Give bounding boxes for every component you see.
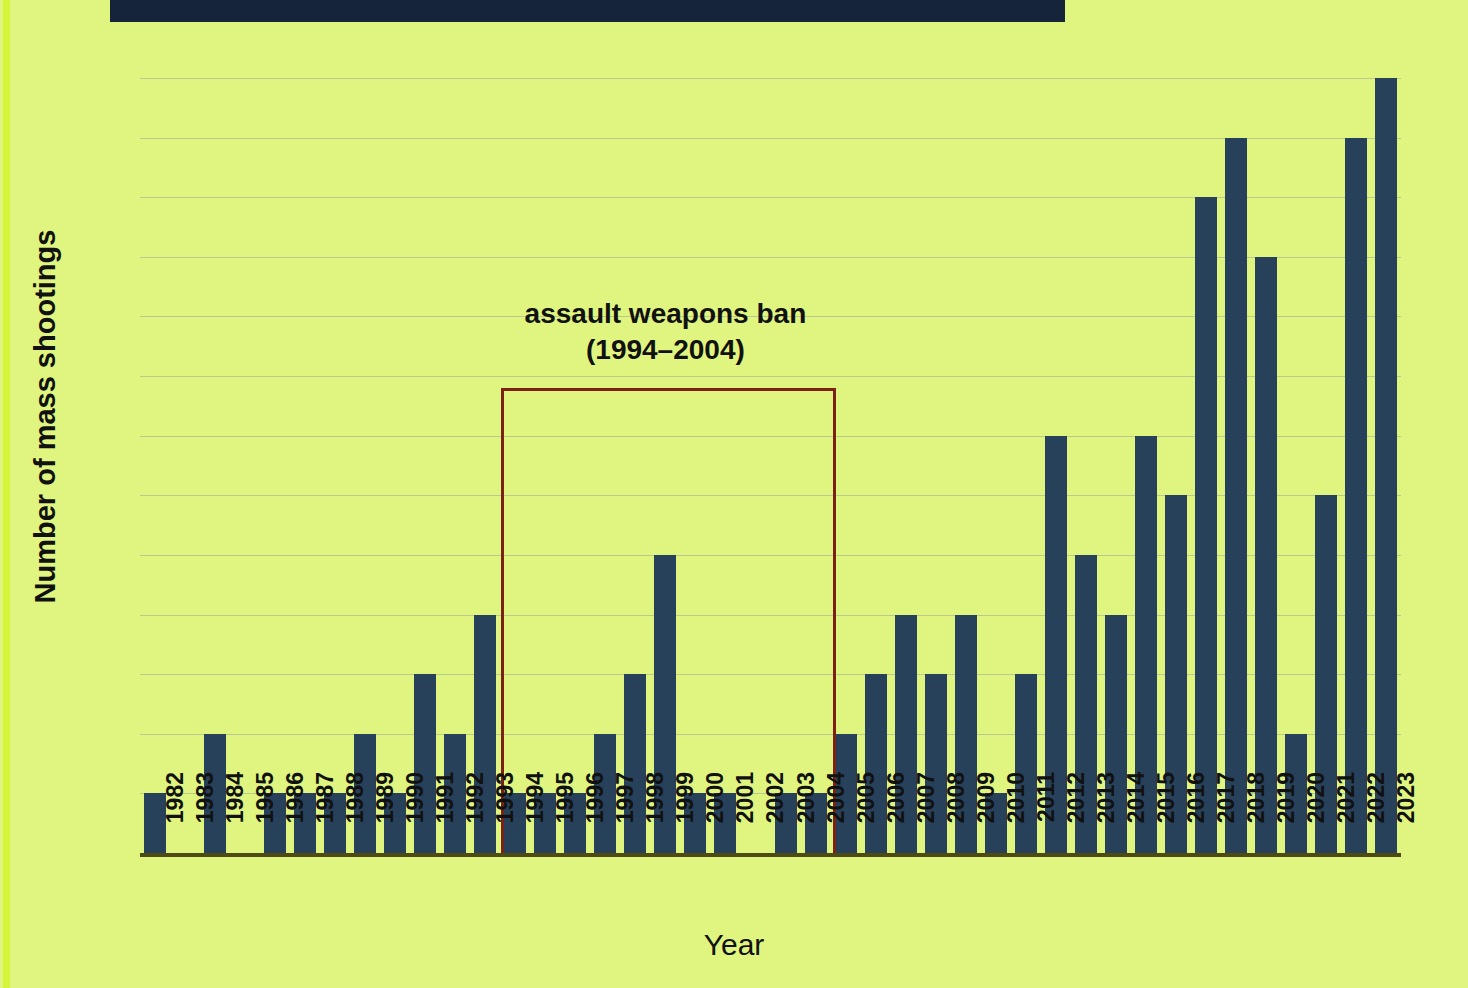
left-edge-accent-stripe <box>3 0 10 988</box>
plot-area: 012345678910111213 assault weapons ban (… <box>140 78 1401 853</box>
x-tick-label: 2012 <box>1065 772 1088 862</box>
y-axis-title: Number of mass shootings <box>29 107 62 727</box>
x-tick-label: 1984 <box>224 772 247 862</box>
bar <box>1345 138 1367 853</box>
x-tick-label: 1995 <box>554 772 577 862</box>
x-tick-label: 1996 <box>584 772 607 862</box>
x-tick-label: 1988 <box>344 772 367 862</box>
x-tick-label: 2002 <box>764 772 787 862</box>
x-tick-label: 2007 <box>915 772 938 862</box>
bar <box>1225 138 1247 853</box>
x-tick-label: 2022 <box>1365 772 1388 862</box>
x-axis-title: Year <box>0 928 1468 962</box>
x-tick-label: 2011 <box>1035 772 1058 862</box>
x-tick-label: 1982 <box>164 772 187 862</box>
assault-weapons-ban-label: assault weapons ban (1994–2004) <box>411 296 919 368</box>
x-tick-label: 1990 <box>404 772 427 862</box>
title-header-bar <box>110 0 1065 22</box>
gridline <box>140 138 1401 139</box>
x-tick-label: 2014 <box>1125 772 1148 862</box>
x-tick-label: 2019 <box>1275 772 1298 862</box>
bar <box>1375 78 1397 853</box>
x-tick-label: 1983 <box>194 772 217 862</box>
x-tick-label: 1987 <box>314 772 337 862</box>
x-tick-label: 1985 <box>254 772 277 862</box>
x-tick-label: 1992 <box>464 772 487 862</box>
x-tick-label: 1998 <box>644 772 667 862</box>
x-tick-label: 1993 <box>494 772 517 862</box>
x-tick-label: 1986 <box>284 772 307 862</box>
x-tick-label: 1994 <box>524 772 547 862</box>
gridline <box>140 78 1401 79</box>
x-tick-label: 2021 <box>1335 772 1358 862</box>
x-tick-label: 1991 <box>434 772 457 862</box>
x-tick-label: 2005 <box>855 772 878 862</box>
x-tick-label: 2006 <box>885 772 908 862</box>
x-tick-label: 1999 <box>674 772 697 862</box>
x-tick-label: 1989 <box>374 772 397 862</box>
x-tick-label: 2017 <box>1215 772 1238 862</box>
x-tick-label: 2020 <box>1305 772 1328 862</box>
x-tick-label: 1997 <box>614 772 637 862</box>
bar <box>1195 197 1217 853</box>
x-tick-label: 2003 <box>795 772 818 862</box>
mass-shootings-bar-chart: Number of mass shootings 012345678910111… <box>0 0 1468 988</box>
x-tick-label: 2000 <box>704 772 727 862</box>
x-tick-label: 2009 <box>975 772 998 862</box>
x-tick-label: 2023 <box>1395 772 1418 862</box>
x-tick-label: 2010 <box>1005 772 1028 862</box>
bar <box>1255 257 1277 853</box>
x-tick-label: 2008 <box>945 772 968 862</box>
x-tick-label: 2013 <box>1095 772 1118 862</box>
x-tick-label: 2015 <box>1155 772 1178 862</box>
x-tick-label: 2016 <box>1185 772 1208 862</box>
x-tick-label: 2001 <box>734 772 757 862</box>
x-tick-label: 2018 <box>1245 772 1268 862</box>
x-tick-label: 2004 <box>825 772 848 862</box>
